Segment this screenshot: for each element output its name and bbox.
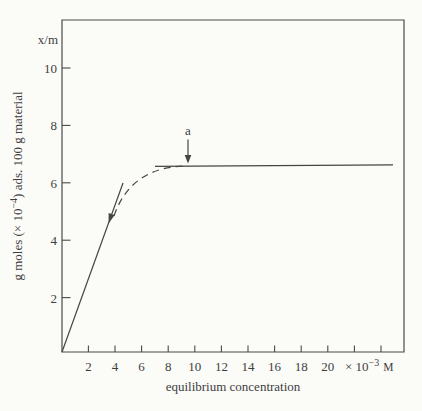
y-tick-label-2: 2 <box>51 291 58 306</box>
tangent-arrowhead-icon <box>109 213 115 224</box>
x-tick-label-2: 2 <box>85 359 92 374</box>
plateau-line <box>155 165 393 167</box>
y-axis-title: g moles (× 10−4) ads. 100 g material <box>8 91 25 280</box>
x-tick-label-8: 8 <box>165 359 172 374</box>
plot-frame <box>62 20 404 352</box>
tangent-line <box>62 183 123 352</box>
x-tick-label-4: 4 <box>112 359 119 374</box>
y-tick-label-4: 4 <box>51 233 58 248</box>
y-axis-corner-label: x/m <box>38 32 58 47</box>
y-title-pre: g moles (× 10 <box>10 209 25 281</box>
x-tick-label-18: 18 <box>295 359 308 374</box>
x-tick-label-20: 20 <box>321 359 334 374</box>
unit-mantissa: × 10 <box>345 359 369 374</box>
y-tick-label-6: 6 <box>51 176 58 191</box>
x-tick-label-16: 16 <box>268 359 282 374</box>
unit-exponent: −3 <box>369 357 380 368</box>
adsorption-isotherm-figure: 10 8 6 4 2 2 4 6 8 10 12 14 16 18 20 <box>0 0 422 411</box>
y-tick-label-10: 10 <box>44 61 57 76</box>
x-tick-label-6: 6 <box>138 359 145 374</box>
x-axis-title: equilibrium concentration <box>166 379 301 394</box>
x-tick-label-14: 14 <box>242 359 256 374</box>
y-title-post: ) ads. 100 g material <box>10 91 25 198</box>
y-title-exponent: −4 <box>8 198 19 209</box>
annotation-a-label: a <box>185 123 191 138</box>
y-tick-label-8: 8 <box>51 118 58 133</box>
x-tick-label-10: 10 <box>188 359 201 374</box>
unit-molar-symbol: M <box>383 361 393 373</box>
x-axis-ticks <box>88 346 381 353</box>
y-axis-ticks <box>62 68 71 298</box>
annotation-a-arrowhead-icon <box>185 155 192 164</box>
isotherm-dashed-curve <box>114 166 188 216</box>
x-tick-label-12: 12 <box>215 359 228 374</box>
x-axis-unit-label: × 10−3M <box>345 357 393 374</box>
isotherm-plot-canvas: 10 8 6 4 2 2 4 6 8 10 12 14 16 18 20 <box>0 0 422 411</box>
